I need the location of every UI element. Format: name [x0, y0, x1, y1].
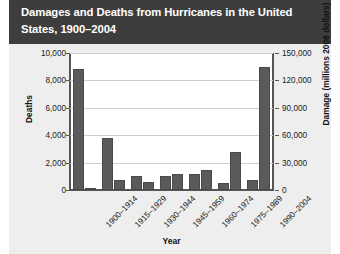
bar-deaths	[160, 176, 171, 190]
bar-damage	[172, 174, 183, 190]
bar-deaths	[218, 183, 229, 190]
bar-damage	[259, 67, 270, 190]
bar-deaths	[189, 174, 200, 190]
hurricane-damages-deaths-figure: Damages and Deaths from Hurricanes in th…	[0, 0, 340, 254]
bar-group	[215, 53, 244, 190]
bar-damage	[201, 170, 212, 190]
y-axis-left-tick-label: 10,000	[41, 49, 66, 58]
y-axis-left-ticks: 02,0004,0006,0008,00010,000	[15, 53, 66, 190]
plot-area	[70, 53, 273, 190]
bar-deaths	[247, 180, 258, 190]
y-axis-left-tick-label: 2,000	[46, 158, 67, 167]
bar-group	[70, 53, 99, 190]
y-axis-right-ticks: 030,00060,00090,000120,000150,000	[275, 53, 329, 190]
y-axis-right-tick-mark	[275, 80, 279, 81]
bar-deaths	[73, 69, 84, 190]
y-axis-right-tick-label: 150,000	[282, 49, 312, 58]
y-axis-right-tick-mark	[275, 135, 279, 136]
bar-group	[128, 53, 157, 190]
bar-damage	[85, 188, 96, 190]
chart-title-bar: Damages and Deaths from Hurricanes in th…	[9, 0, 331, 44]
bar-damage	[143, 182, 154, 190]
bar-group	[244, 53, 273, 190]
bars-layer	[70, 53, 273, 190]
y-axis-left-tick-label: 8,000	[46, 76, 67, 85]
y-axis-left-tick-label: 6,000	[46, 103, 67, 112]
y-axis-right-tick-mark	[275, 53, 279, 54]
bar-deaths	[102, 138, 113, 190]
y-axis-right-tick-mark	[275, 190, 279, 191]
y-axis-right-tick-label: 0	[282, 186, 287, 195]
chart-title: Damages and Deaths from Hurricanes in th…	[21, 4, 319, 37]
bar-group	[157, 53, 186, 190]
bar-group	[99, 53, 128, 190]
bar-deaths	[131, 176, 142, 190]
y-axis-right-tick-label: 30,000	[282, 158, 307, 167]
y-axis-left-tick-label: 4,000	[46, 131, 67, 140]
y-axis-right-tick-label: 120,000	[282, 76, 312, 85]
chart-panel: Deaths Damage (millions 2006 dollars) 02…	[9, 44, 331, 254]
y-axis-right-tick-mark	[275, 108, 279, 109]
x-axis-title: Year	[70, 236, 273, 246]
y-axis-right-tick-label: 90,000	[282, 103, 307, 112]
bar-group	[186, 53, 215, 190]
bar-damage	[114, 180, 125, 190]
y-axis-right-tick-label: 60,000	[282, 131, 307, 140]
y-axis-right-tick-mark	[275, 163, 279, 164]
x-axis-ticks: 1900–19141915–19291930–19441945–19591960…	[70, 192, 273, 238]
bar-damage	[230, 152, 241, 190]
